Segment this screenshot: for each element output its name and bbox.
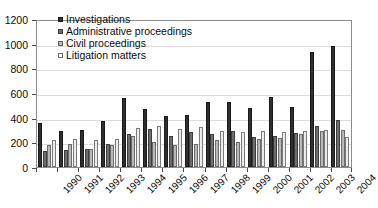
- bar[interactable]: [310, 52, 314, 167]
- legend-swatch-icon: [58, 53, 63, 58]
- bar[interactable]: [303, 131, 307, 167]
- bar-group: [267, 21, 288, 167]
- bar[interactable]: [47, 145, 51, 167]
- bar[interactable]: [215, 140, 219, 167]
- bar[interactable]: [299, 134, 303, 167]
- bar[interactable]: [241, 132, 245, 167]
- bar-group: [288, 21, 309, 167]
- bar[interactable]: [38, 123, 42, 167]
- chart-legend: InvestigationsAdministrative proceedings…: [58, 14, 238, 62]
- bar[interactable]: [110, 145, 114, 167]
- bar[interactable]: [89, 149, 93, 168]
- bar[interactable]: [136, 128, 140, 167]
- bar[interactable]: [345, 137, 349, 167]
- bar[interactable]: [148, 129, 152, 167]
- bar[interactable]: [315, 126, 319, 167]
- x-axis: 1990199119921993199419951996199719981999…: [36, 172, 352, 208]
- bar-group: [37, 21, 58, 167]
- y-tick-label: 400: [10, 114, 28, 124]
- bar[interactable]: [80, 130, 84, 167]
- x-tick-label: 1994: [144, 172, 168, 196]
- legend-item[interactable]: Investigations: [58, 14, 238, 26]
- bar[interactable]: [43, 151, 47, 167]
- y-tick-label: 800: [10, 64, 28, 74]
- bar[interactable]: [68, 144, 72, 167]
- x-tick-label: 2001: [292, 172, 316, 196]
- bar[interactable]: [206, 102, 210, 167]
- bar[interactable]: [294, 133, 298, 167]
- bar[interactable]: [324, 130, 328, 167]
- bar-group: [330, 21, 351, 167]
- bar[interactable]: [252, 137, 256, 167]
- y-tick-label: 0: [22, 163, 28, 173]
- bar[interactable]: [199, 127, 203, 167]
- bar[interactable]: [106, 144, 110, 167]
- bar[interactable]: [261, 131, 265, 167]
- bar[interactable]: [341, 130, 345, 167]
- y-tick-label: 1200: [5, 15, 28, 25]
- bar[interactable]: [143, 109, 147, 167]
- x-tick-label: 1997: [208, 172, 232, 196]
- x-tick-label: 2002: [313, 172, 337, 196]
- bar[interactable]: [169, 136, 173, 167]
- bar[interactable]: [194, 144, 198, 167]
- bar[interactable]: [157, 126, 161, 167]
- y-tick-label: 1000: [5, 40, 28, 50]
- x-tick-label: 1992: [102, 172, 126, 196]
- bar[interactable]: [64, 150, 68, 167]
- bar[interactable]: [73, 139, 77, 167]
- bar[interactable]: [131, 136, 135, 167]
- legend-item[interactable]: Civil proceedings: [58, 38, 238, 50]
- y-axis: 020040060080010001200: [0, 0, 36, 208]
- bar[interactable]: [278, 138, 282, 167]
- x-tick-label: 1999: [250, 172, 274, 196]
- bar[interactable]: [257, 139, 261, 167]
- bar[interactable]: [94, 140, 98, 167]
- y-tick-label: 600: [10, 89, 28, 99]
- legend-label: Civil proceedings: [66, 38, 146, 49]
- bar[interactable]: [173, 145, 177, 167]
- legend-item[interactable]: Litigation matters: [58, 50, 238, 62]
- bar[interactable]: [290, 107, 294, 167]
- bar[interactable]: [115, 139, 119, 167]
- bar[interactable]: [336, 120, 340, 167]
- legend-label: Investigations: [66, 14, 130, 25]
- legend-swatch-icon: [58, 17, 63, 22]
- bar-group: [246, 21, 267, 167]
- bar[interactable]: [248, 108, 252, 167]
- bar[interactable]: [127, 134, 131, 167]
- bar[interactable]: [152, 142, 156, 167]
- bar[interactable]: [101, 121, 105, 167]
- bar[interactable]: [320, 131, 324, 167]
- legend-label: Administrative proceedings: [66, 26, 192, 37]
- bar[interactable]: [178, 129, 182, 167]
- bar[interactable]: [227, 102, 231, 167]
- x-tick-label: 2004: [355, 172, 378, 196]
- bar[interactable]: [85, 149, 89, 167]
- x-tick-label: 1990: [60, 172, 84, 196]
- bar[interactable]: [220, 131, 224, 167]
- bar[interactable]: [269, 97, 273, 167]
- y-tick-label: 200: [10, 138, 28, 148]
- x-tick-label: 2003: [334, 172, 358, 196]
- x-tick-label: 1996: [186, 172, 210, 196]
- bar[interactable]: [236, 142, 240, 167]
- bar-group: [309, 21, 330, 167]
- bar[interactable]: [231, 131, 235, 167]
- bar[interactable]: [282, 132, 286, 167]
- x-tick-label: 1991: [81, 172, 105, 196]
- legend-swatch-icon: [58, 29, 63, 34]
- bar[interactable]: [210, 134, 214, 167]
- bar[interactable]: [331, 46, 335, 167]
- bar[interactable]: [164, 116, 168, 167]
- x-tick-label: 1998: [229, 172, 253, 196]
- bar[interactable]: [185, 115, 189, 167]
- bar[interactable]: [52, 140, 56, 167]
- bar[interactable]: [273, 136, 277, 167]
- legend-item[interactable]: Administrative proceedings: [58, 26, 238, 38]
- bar[interactable]: [189, 132, 193, 167]
- bar[interactable]: [59, 131, 63, 167]
- x-tick-label: 1993: [123, 172, 147, 196]
- legend-swatch-icon: [58, 41, 63, 46]
- bar[interactable]: [122, 98, 126, 167]
